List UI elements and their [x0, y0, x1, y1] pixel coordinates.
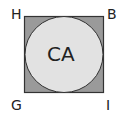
corner-label-bottom-right: I [106, 98, 110, 112]
corner-label-top-right: B [107, 7, 117, 21]
corner-label-bottom-left: G [11, 98, 22, 112]
corner-label-top-left: H [11, 7, 22, 21]
circle-label: CA [47, 44, 75, 64]
